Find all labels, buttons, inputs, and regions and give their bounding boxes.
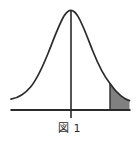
figure-caption: 図 1 xyxy=(0,122,139,136)
figure-normal-distribution: 図 1 xyxy=(0,0,139,146)
bell-curve-diagram xyxy=(0,0,139,120)
